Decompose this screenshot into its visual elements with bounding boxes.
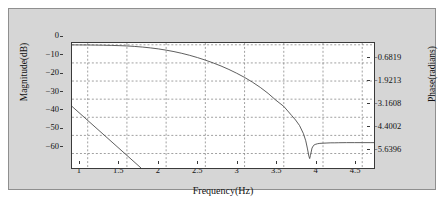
- y-tick-mark-right: [367, 57, 370, 58]
- y-tick-mark-left: [60, 73, 63, 74]
- plot-area: [71, 42, 375, 169]
- y-tick-label-left: −60: [29, 141, 59, 151]
- y-axis-left-title: Magnitude(dB): [19, 26, 29, 118]
- x-tick-mark: [276, 161, 277, 164]
- x-axis-title: Frequency(Hz): [71, 185, 375, 196]
- phase-line: [72, 106, 141, 168]
- y-tick-mark-left: [60, 91, 63, 92]
- figure-root: Magnitude(dB) Phase(radians) Frequency(H…: [0, 0, 444, 210]
- y-tick-label-left: 0: [29, 30, 59, 40]
- y-tick-label-left: −30: [29, 86, 59, 96]
- x-tick-mark: [237, 161, 238, 164]
- y-tick-label-right: −0.6819: [373, 52, 417, 62]
- y-tick-mark-right: [367, 126, 370, 127]
- y-tick-label-right: −4.4002: [373, 121, 417, 131]
- data-series: [72, 45, 374, 168]
- x-tick-mark: [118, 161, 119, 164]
- y-tick-label-left: −50: [29, 122, 59, 132]
- x-tick-mark: [316, 161, 317, 164]
- y-tick-mark-left: [60, 54, 63, 55]
- magnitude-curve: [72, 45, 374, 159]
- y-tick-mark-left: [60, 36, 63, 37]
- y-tick-mark-left: [60, 128, 63, 129]
- y-tick-mark-right: [367, 103, 370, 104]
- y-tick-mark-right: [367, 149, 370, 150]
- y-tick-label-right: −5.6396: [373, 144, 417, 154]
- x-tick-mark: [197, 161, 198, 164]
- y-tick-mark-left: [60, 146, 63, 147]
- y-axis-right-title: Phase(radians): [427, 26, 437, 122]
- grid-lines: [72, 43, 374, 168]
- y-tick-mark-right: [367, 80, 370, 81]
- y-tick-label-right: −3.1608: [373, 98, 417, 108]
- x-tick-mark: [355, 161, 356, 164]
- y-tick-label-left: −20: [29, 67, 59, 77]
- x-tick-mark: [79, 161, 80, 164]
- y-tick-label-right: −1.9213: [373, 75, 417, 85]
- y-tick-label-left: −10: [29, 49, 59, 59]
- figure-panel: Magnitude(dB) Phase(radians) Frequency(H…: [8, 8, 436, 190]
- plot-canvas: [72, 43, 374, 168]
- x-tick-mark: [158, 161, 159, 164]
- y-tick-label-left: −40: [29, 104, 59, 114]
- y-tick-mark-left: [60, 109, 63, 110]
